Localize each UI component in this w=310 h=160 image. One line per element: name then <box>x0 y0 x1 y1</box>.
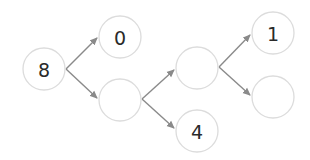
edge-blank-a-to-4 <box>142 99 174 128</box>
node-blank-a[interactable] <box>99 79 141 121</box>
edge-blank-b-to-1 <box>219 35 250 67</box>
edge-8-to-0 <box>66 38 97 69</box>
edge-blank-a-to-blank-b <box>142 70 174 99</box>
edge-8-to-blank-a <box>66 69 97 98</box>
node-0-value: 0 <box>114 27 126 49</box>
node-blank-c[interactable] <box>252 76 294 118</box>
node-0: 0 <box>99 16 141 58</box>
decomposition-diagram: 8 0 4 1 <box>0 0 310 160</box>
node-8: 8 <box>23 48 65 90</box>
node-8-value: 8 <box>38 59 50 81</box>
edge-blank-b-to-blank-c <box>219 67 250 95</box>
node-1-value: 1 <box>267 23 279 45</box>
node-4-value: 4 <box>191 121 203 143</box>
node-4: 4 <box>176 110 218 152</box>
node-1: 1 <box>252 12 294 54</box>
node-blank-b[interactable] <box>176 47 218 89</box>
